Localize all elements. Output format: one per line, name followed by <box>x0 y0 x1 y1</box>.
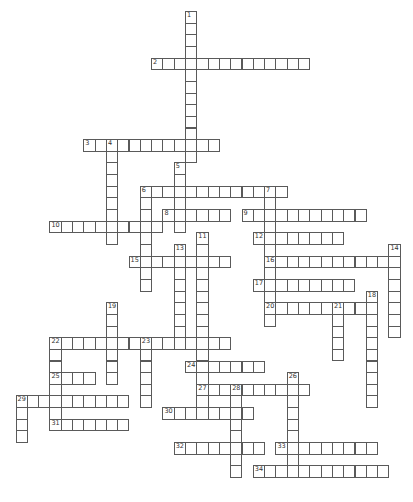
crossword-cell[interactable] <box>275 384 287 397</box>
crossword-cell[interactable] <box>174 58 186 71</box>
clue-number: 34 <box>255 466 263 473</box>
clue-number: 17 <box>255 280 263 287</box>
crossword-cell[interactable] <box>185 407 197 420</box>
crossword-cell[interactable] <box>242 407 254 420</box>
crossword-cell[interactable] <box>332 349 344 362</box>
crossword-cell[interactable] <box>253 209 265 222</box>
clue-number: 9 <box>244 210 248 217</box>
clue-number: 29 <box>18 396 26 403</box>
crossword-cell[interactable] <box>140 279 152 292</box>
clue-number: 3 <box>85 140 89 147</box>
crossword-cell[interactable] <box>355 302 367 315</box>
crossword-cell[interactable] <box>219 442 231 455</box>
crossword-cell[interactable] <box>253 442 265 455</box>
crossword-cell[interactable] <box>219 209 231 222</box>
crossword-cell[interactable] <box>117 419 129 432</box>
clue-number: 28 <box>232 385 240 392</box>
clue-number: 15 <box>131 257 139 264</box>
crossword-cell[interactable] <box>174 139 186 152</box>
crossword-cell[interactable] <box>219 407 231 420</box>
crossword-cell[interactable] <box>219 337 231 350</box>
crossword-cell[interactable]: 12 <box>253 232 265 245</box>
crossword-cell[interactable] <box>366 442 378 455</box>
crossword-cell[interactable]: 8 <box>162 209 174 222</box>
clue-number: 21 <box>334 303 342 310</box>
clue-number: 4 <box>108 140 112 147</box>
crossword-cell[interactable] <box>343 279 355 292</box>
crossword-cell[interactable] <box>174 221 186 234</box>
crossword-cell[interactable] <box>117 395 129 408</box>
clue-number: 1 <box>187 12 191 19</box>
crossword-cell[interactable] <box>208 139 220 152</box>
clue-number: 30 <box>164 408 172 415</box>
crossword-cell[interactable] <box>106 232 118 245</box>
clue-number: 8 <box>164 210 168 217</box>
crossword-cell[interactable]: 15 <box>129 256 141 269</box>
crossword-cell[interactable]: 17 <box>253 279 265 292</box>
clue-number: 18 <box>368 292 376 299</box>
clue-number: 33 <box>277 443 285 450</box>
crossword-cell[interactable] <box>185 151 197 164</box>
clue-number: 20 <box>266 303 274 310</box>
crossword-cell[interactable]: 24 <box>185 361 197 374</box>
clue-number: 27 <box>198 385 206 392</box>
clue-number: 14 <box>390 245 398 252</box>
clue-number: 11 <box>198 233 206 240</box>
crossword-cell[interactable] <box>95 221 107 234</box>
clue-number: 5 <box>176 163 180 170</box>
crossword-cell[interactable] <box>95 337 107 350</box>
clue-number: 32 <box>176 443 184 450</box>
crossword-cell[interactable] <box>162 337 174 350</box>
clue-number: 25 <box>51 373 59 380</box>
crossword-cell[interactable] <box>16 430 28 443</box>
crossword-cell[interactable] <box>275 465 287 478</box>
clue-number: 24 <box>187 362 195 369</box>
clue-number: 10 <box>51 222 59 229</box>
crossword-grid: 1234567162089101127121314151718192122232… <box>0 0 413 502</box>
crossword-cell[interactable] <box>275 186 287 199</box>
crossword-cell[interactable] <box>38 395 50 408</box>
crossword-cell[interactable] <box>219 256 231 269</box>
crossword-cell[interactable] <box>162 256 174 269</box>
crossword-cell[interactable] <box>129 221 141 234</box>
crossword-cell[interactable] <box>230 465 242 478</box>
crossword-cell[interactable]: 33 <box>275 442 287 455</box>
crossword-cell[interactable] <box>298 58 310 71</box>
crossword-cell[interactable] <box>185 337 197 350</box>
crossword-cell[interactable] <box>83 372 95 385</box>
clue-number: 23 <box>142 338 150 345</box>
crossword-cell[interactable] <box>377 256 389 269</box>
crossword-cell[interactable] <box>185 256 197 269</box>
crossword-cell[interactable] <box>377 465 389 478</box>
crossword-cell[interactable] <box>366 395 378 408</box>
crossword-cell[interactable] <box>332 232 344 245</box>
clue-number: 26 <box>289 373 297 380</box>
crossword-cell[interactable] <box>140 395 152 408</box>
crossword-cell[interactable] <box>298 384 310 397</box>
clue-number: 12 <box>255 233 263 240</box>
clue-number: 2 <box>153 59 157 66</box>
clue-number: 16 <box>266 257 274 264</box>
clue-number: 31 <box>51 420 59 427</box>
crossword-cell[interactable] <box>106 372 118 385</box>
clue-number: 7 <box>266 187 270 194</box>
clue-number: 19 <box>108 303 116 310</box>
crossword-cell[interactable] <box>388 326 400 339</box>
clue-number: 22 <box>51 338 59 345</box>
clue-number: 6 <box>142 187 146 194</box>
crossword-cell[interactable] <box>162 186 174 199</box>
crossword-cell[interactable] <box>355 209 367 222</box>
crossword-cell[interactable] <box>264 314 276 327</box>
crossword-cell[interactable] <box>151 221 163 234</box>
clue-number: 13 <box>176 245 184 252</box>
crossword-cell[interactable] <box>253 361 265 374</box>
